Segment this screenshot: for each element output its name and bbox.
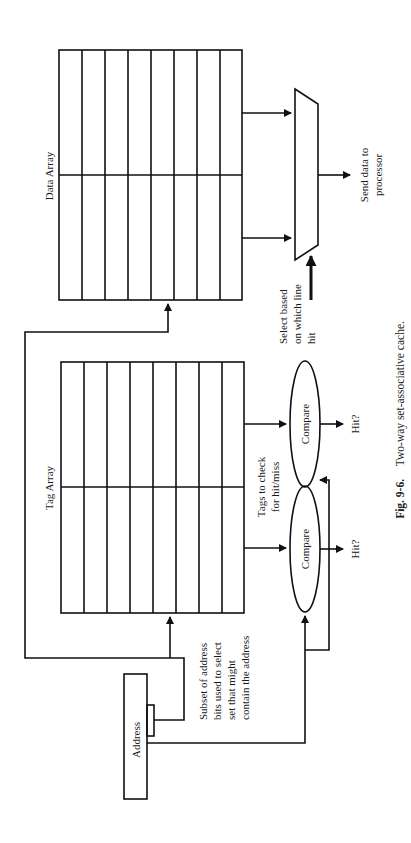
figure-caption: Fig. 9-6. Two-way set-associative cache.: [394, 321, 407, 519]
svg-text:Select based: Select based: [277, 289, 289, 344]
cache-diagram: Data Array Send data to processor Select…: [0, 0, 411, 843]
hit-way1-label: Hit?: [349, 414, 361, 433]
svg-text:Subset of address: Subset of address: [197, 643, 209, 720]
tags-check-label: Tags to check for hit/miss: [255, 456, 281, 517]
data-array: [59, 50, 242, 300]
svg-text:hit: hit: [305, 332, 317, 344]
svg-text:for hit/miss: for hit/miss: [269, 462, 281, 512]
send-data-label: Send data to processor: [358, 147, 384, 202]
svg-text:Send data to: Send data to: [358, 147, 370, 202]
caption-text: Two-way set-associative cache.: [394, 321, 407, 466]
tag-array: [61, 362, 244, 613]
svg-text:set that might: set that might: [225, 660, 237, 720]
caption-number: Fig. 9-6.: [394, 479, 407, 519]
svg-text:processor: processor: [372, 154, 384, 196]
svg-text:bits used to select: bits used to select: [211, 642, 223, 720]
comparator-way0: Compare: [290, 486, 320, 612]
svg-text:Compare: Compare: [299, 404, 311, 444]
index-bits-label: Subset of address bits used to select se…: [197, 636, 251, 720]
index-bits-field: [147, 705, 154, 736]
multiplexer: [295, 89, 318, 260]
index-to-data-array-line: [25, 304, 184, 720]
comparator-way1: Compare: [290, 361, 320, 487]
tag-array-label: Tag Array: [43, 465, 55, 510]
svg-text:Fig. 9-6. Two-way set-as: Fig. 9-6. Two-way set-associative cache.: [394, 321, 407, 519]
svg-text:contain the address: contain the address: [239, 636, 251, 720]
hit-way0-label: Hit?: [349, 539, 361, 558]
address-label: Address: [130, 722, 142, 758]
svg-text:Tags to check: Tags to check: [255, 456, 267, 517]
svg-text:Compare: Compare: [299, 529, 311, 569]
data-array-label: Data Array: [43, 151, 55, 200]
svg-text:on which line: on which line: [291, 284, 303, 344]
